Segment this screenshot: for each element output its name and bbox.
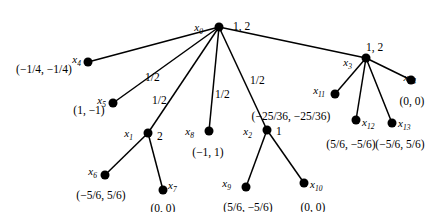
node-coord-label-x6: (−5/6, 5/6): [76, 190, 125, 202]
node-coord-label-x7: (0, 0): [151, 203, 176, 212]
tree-node-x3: [362, 54, 371, 63]
node-id-label-x12: x12: [362, 117, 374, 131]
node-id-label-x0: x0: [194, 22, 203, 36]
tree-node-x2: [263, 126, 272, 135]
tree-edge: [209, 27, 219, 131]
edge-weight-label-1: 1/2: [152, 95, 167, 107]
tree-node-x8: [205, 127, 214, 136]
node-coord-label-x13: (−5/6, 5/6): [375, 139, 424, 151]
tree-diagram: x0x4x5x1x6x7x8x2x9x10x3x11x12x13x141, 22…: [0, 0, 438, 212]
edge-weight-label-2: 1/2: [215, 89, 230, 101]
node-state-label-x3: 1, 2: [366, 42, 383, 54]
tree-node-x11: [331, 90, 340, 99]
node-id-label-x14: x14: [404, 72, 416, 86]
tree-node-x10: [300, 179, 309, 188]
node-id-label-x10: x10: [310, 179, 322, 193]
node-id-label-x6: x6: [88, 166, 97, 180]
node-id-label-x3: x3: [343, 57, 352, 71]
tree-node-x5: [109, 99, 118, 108]
node-coord-label-x2: (−25/36, −25/36): [252, 111, 331, 123]
node-coord-label-x5: (1, −1): [73, 105, 104, 117]
tree-node-x6: [101, 171, 110, 180]
node-state-label-x1: 2: [157, 131, 163, 143]
node-coord-label-x10: (0, 0): [301, 202, 326, 212]
tree-edge: [113, 27, 219, 103]
tree-node-x9: [242, 183, 251, 192]
node-state-label-x0: 1, 2: [233, 21, 250, 33]
node-coord-label-x14: (0, 0): [400, 96, 425, 108]
node-id-label-x2: x2: [243, 126, 252, 140]
node-coord-label-x12: (5/6, −5/6): [326, 139, 375, 151]
tree-node-x1: [144, 129, 153, 138]
tree-edge: [366, 58, 392, 123]
edge-weight-label-3: 1/2: [250, 75, 265, 87]
node-id-label-x9: x9: [222, 178, 231, 192]
node-id-label-x7: x7: [168, 180, 177, 194]
tree-node-x7: [159, 186, 168, 195]
node-id-label-x1: x1: [124, 128, 133, 142]
node-coord-label-x9: (5/6, −5/6): [223, 202, 272, 212]
node-coord-label-x4: (−1/4, −1/4): [16, 64, 72, 76]
edge-weight-label-0: 1/2: [145, 72, 160, 84]
edge-layer: [0, 0, 438, 212]
node-id-label-x8: x8: [185, 126, 194, 140]
tree-edge: [267, 130, 304, 183]
node-coord-label-x8: (−1, 1): [192, 147, 223, 159]
node-id-label-x11: x11: [313, 85, 325, 99]
tree-node-x4: [84, 58, 93, 67]
tree-node-x12: [352, 116, 361, 125]
tree-node-x13: [388, 119, 397, 128]
node-id-label-x13: x13: [398, 118, 410, 132]
node-id-label-x4: x4: [72, 54, 81, 68]
node-state-label-x2: 1: [276, 126, 282, 138]
tree-node-x0: [215, 23, 224, 32]
